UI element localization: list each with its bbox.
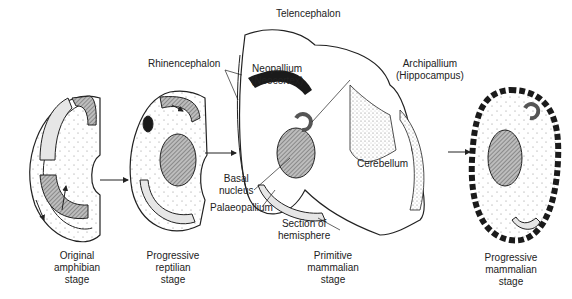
amphibian-section bbox=[30, 96, 100, 242]
caption-line: mammalian bbox=[474, 264, 548, 276]
caption-line: stage bbox=[298, 274, 368, 286]
caption-line: Primitive bbox=[298, 250, 368, 262]
caption-line: Progressive bbox=[474, 252, 548, 264]
label-section-of-hemisphere: Section of hemisphere bbox=[278, 218, 330, 242]
label-neopallium-line1: Neopallium bbox=[251, 63, 303, 75]
label-section-line2: hemisphere bbox=[278, 230, 330, 242]
caption-line: Original bbox=[42, 250, 112, 262]
caption-line: stage bbox=[474, 276, 548, 288]
label-neopallium-line2: (Neocortex) bbox=[251, 75, 303, 87]
reptilian-section bbox=[130, 91, 207, 231]
label-rhinencephalon: Rhinencephalon bbox=[148, 58, 220, 70]
label-archipallium-line2: (Hippocampus) bbox=[396, 70, 464, 82]
label-neopallium: Neopallium (Neocortex) bbox=[251, 63, 303, 87]
caption-line: stage bbox=[138, 274, 208, 286]
caption-line: mammalian bbox=[298, 262, 368, 274]
caption-primitive-mammalian: Primitive mammalian stage bbox=[298, 250, 368, 286]
label-basal-nucleus-line2: nucleus bbox=[219, 185, 253, 197]
caption-line: amphibian bbox=[42, 262, 112, 274]
label-basal-nucleus: Basal nucleus bbox=[219, 173, 253, 197]
caption-line: reptilian bbox=[138, 262, 208, 274]
label-archipallium-line1: Archipallium bbox=[396, 58, 464, 70]
label-cerebellum: Cerebellum bbox=[357, 158, 408, 170]
caption-line: stage bbox=[42, 274, 112, 286]
label-telencephalon: Telencephalon bbox=[276, 8, 341, 20]
label-section-line1: Section of bbox=[278, 218, 330, 230]
label-archipallium: Archipallium (Hippocampus) bbox=[396, 58, 464, 82]
caption-amphibian: Original amphibian stage bbox=[42, 250, 112, 286]
caption-reptilian: Progressive reptilian stage bbox=[138, 250, 208, 286]
caption-line: Progressive bbox=[138, 250, 208, 262]
caption-progressive-mammalian: Progressive mammalian stage bbox=[474, 252, 548, 288]
progressive-mammalian-section bbox=[472, 90, 558, 240]
label-basal-nucleus-line1: Basal bbox=[219, 173, 253, 185]
label-palaeopallium: Palaeopallium bbox=[210, 202, 273, 214]
